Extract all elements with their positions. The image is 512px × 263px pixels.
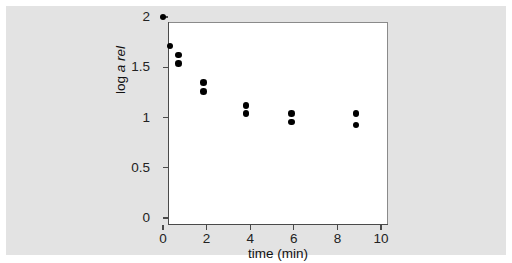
y-axis-label-prefix: log — [113, 72, 128, 94]
x-tick-mark — [337, 225, 338, 230]
x-tick-mark — [206, 225, 207, 230]
y-axis-label: log a rel — [114, 46, 128, 94]
scatter-point — [200, 79, 207, 86]
plot-frame-right — [387, 22, 388, 225]
x-axis-line — [168, 224, 388, 225]
y-axis-line — [168, 22, 169, 225]
x-tick-mark — [293, 225, 294, 230]
scatter-point — [175, 52, 182, 59]
scatter-point — [200, 88, 207, 95]
x-tick-label: 8 — [322, 232, 352, 246]
y-tick-label: 2 — [142, 10, 150, 24]
scatter-point — [160, 14, 167, 21]
figure-panel: 00.511.52 0246810 log a rel time (min) — [6, 6, 506, 255]
x-tick-label: 10 — [366, 232, 396, 246]
plot-frame-top — [168, 22, 388, 23]
x-tick-label: 6 — [279, 232, 309, 246]
scatter-point — [288, 110, 295, 117]
scatter-point — [175, 60, 182, 67]
scatter-point — [353, 110, 360, 117]
scatter-point — [243, 102, 250, 109]
y-tick-mark — [163, 67, 168, 68]
y-tick-mark — [163, 167, 168, 168]
x-tick-mark — [162, 225, 163, 230]
x-tick-mark — [380, 225, 381, 230]
y-tick-mark — [163, 217, 168, 218]
scatter-point — [243, 110, 250, 117]
y-tick-label: 0 — [142, 211, 150, 225]
y-tick-mark — [163, 117, 168, 118]
figure-canvas: 00.511.52 0246810 log a rel time (min) — [0, 0, 512, 263]
y-tick-label: 1.5 — [131, 60, 150, 74]
scatter-point — [288, 119, 295, 126]
x-tick-mark — [250, 225, 251, 230]
x-tick-label: 0 — [148, 232, 178, 246]
x-tick-label: 4 — [235, 232, 265, 246]
y-tick-label: 1 — [142, 111, 150, 125]
x-axis-label: time (min) — [218, 247, 338, 261]
x-tick-label: 2 — [192, 232, 222, 246]
y-axis-label-italic: a rel — [113, 46, 128, 72]
y-tick-label: 0.5 — [131, 161, 150, 175]
